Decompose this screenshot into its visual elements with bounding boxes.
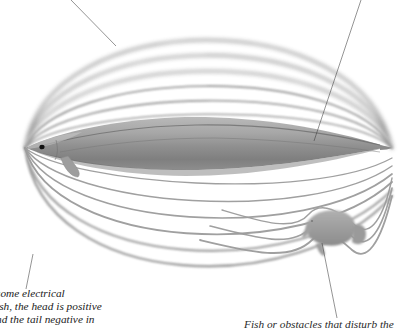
caption-left-line-2: ish, the head is positive: [0, 300, 102, 313]
figure-canvas: some electrical ish, the head is positiv…: [0, 0, 415, 332]
electric-field-illustration: [0, 0, 415, 332]
caption-electric-field: some electrical ish, the head is positiv…: [0, 287, 102, 327]
small-fish-tail: [352, 224, 366, 244]
leader-top-left: [71, 0, 116, 46]
leader-top-right: [314, 0, 361, 141]
caption-left-line-3: nd the tail negative in: [0, 313, 102, 326]
leader-left-caption: [26, 254, 33, 289]
field-lines-distortion: [200, 178, 392, 254]
small-fish-eye: [311, 220, 313, 222]
small-fish-body: [306, 210, 356, 246]
leader-right-caption: [322, 243, 337, 318]
caption-left-line-1: some electrical: [0, 287, 102, 300]
eel-eye: [39, 145, 44, 150]
caption-fish-obstacles: Fish or obstacles that disturb the: [244, 318, 394, 331]
caption-right-line-1: Fish or obstacles that disturb the: [244, 318, 394, 331]
